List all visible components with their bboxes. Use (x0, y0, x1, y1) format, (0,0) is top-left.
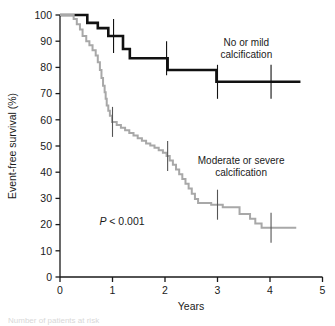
cut-off-caption: Number of patients at risk (8, 316, 208, 326)
y-axis-title: Event-free survival (%) (6, 93, 18, 199)
kaplan-meier-figure: 0102030405060708090100 012345 P < 0.001N… (0, 0, 335, 326)
y-tick-label: 70 (40, 87, 52, 99)
x-tick-label: 1 (110, 284, 116, 296)
y-tick-label: 100 (34, 9, 52, 21)
x-tick-label: 5 (320, 284, 326, 296)
y-tick-label: 40 (40, 166, 52, 178)
y-tick-label: 20 (40, 218, 52, 230)
x-tick-label: 0 (57, 284, 63, 296)
y-tick-label: 30 (40, 192, 52, 204)
y-tick-label: 0 (46, 271, 52, 283)
y-tick-label: 10 (40, 245, 52, 257)
y-tick-label: 50 (40, 140, 52, 152)
label-no-or-mild-calcification: No or mildcalcification (221, 37, 273, 60)
survival-chart: 0102030405060708090100 012345 P < 0.001N… (0, 0, 335, 326)
x-tick-label: 4 (267, 284, 273, 296)
y-tick-label: 60 (40, 114, 52, 126)
x-axis-title: Years (178, 300, 204, 312)
y-tick-label: 80 (40, 61, 52, 73)
x-tick-label: 2 (162, 284, 168, 296)
p-value-annotation: P < 0.001 (99, 215, 144, 227)
x-tick-label: 3 (215, 284, 221, 296)
y-tick-label: 90 (40, 35, 52, 47)
